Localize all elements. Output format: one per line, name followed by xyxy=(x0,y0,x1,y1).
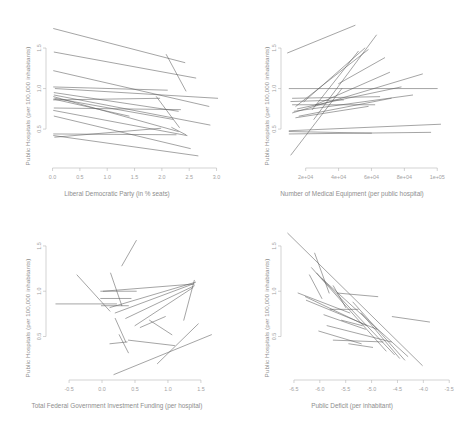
trend-line-segment xyxy=(156,97,179,128)
y-axis-title-bottom-right: Public Hospitals (per 100,000 inhabitant… xyxy=(263,243,270,393)
trend-line-segment xyxy=(110,342,127,344)
y-tick-label: 1.5 xyxy=(271,44,277,52)
x-tick-label: -3.5 xyxy=(445,386,454,392)
x-tick-label: -6.5 xyxy=(289,386,298,392)
trend-line-segment xyxy=(296,106,368,117)
trend-line-segment xyxy=(110,282,196,307)
x-tick-label: 1.5 xyxy=(197,386,205,392)
x-tick-label: 1e+05 xyxy=(430,174,445,180)
trend-line-segment xyxy=(166,55,186,91)
y-tick-label: 1.0 xyxy=(271,85,277,93)
plot-area-top-left: 0.00.51.01.52.02.53.00.51.01.5 xyxy=(0,0,234,211)
x-tick-label: -4.0 xyxy=(419,386,428,392)
trend-line-segment xyxy=(55,128,161,137)
trend-line-segment xyxy=(54,136,198,156)
y-tick-label: 0.5 xyxy=(36,333,42,341)
y-tick-label: 1.0 xyxy=(36,287,42,295)
panel-top-right: 2e+044e+046e+048e+041e+050.51.01.5 Publi… xyxy=(235,0,469,211)
trend-line-segment xyxy=(111,273,122,306)
x-tick-label: 0.0 xyxy=(49,174,57,180)
x-tick-label: 0.0 xyxy=(98,386,106,392)
trend-line-segment xyxy=(333,286,345,308)
trend-line-segment xyxy=(126,286,195,319)
x-axis-title-bottom-left: Total Federal Government Investment Fund… xyxy=(0,402,234,409)
x-tick-label: 4e+04 xyxy=(331,174,346,180)
x-tick-label: -5.5 xyxy=(341,386,350,392)
trend-line-segment xyxy=(298,293,350,313)
x-tick-label: 2e+04 xyxy=(298,174,313,180)
plot-area-bottom-left: -0.50.00.51.01.50.51.01.5 xyxy=(0,212,234,423)
panel-top-left: 0.00.51.01.52.02.53.00.51.01.5 Public Ho… xyxy=(0,0,234,211)
y-tick-label: 0.5 xyxy=(271,125,277,133)
panel-bottom-right: -6.5-6.0-5.5-5.0-4.5-4.0-3.50.51.01.5 Pu… xyxy=(235,212,469,423)
trend-line-segment xyxy=(114,335,212,375)
trend-line-segment xyxy=(349,344,373,348)
trend-line-segment xyxy=(288,233,423,365)
trend-line-segment xyxy=(337,293,377,297)
trend-line-segment xyxy=(304,48,365,102)
x-tick-label: 1.5 xyxy=(131,174,139,180)
trend-line-segment xyxy=(128,340,174,345)
plot-area-top-right: 2e+044e+046e+048e+041e+050.51.01.5 xyxy=(235,0,469,211)
trend-line-segment xyxy=(149,320,171,335)
trend-line-segment xyxy=(317,273,395,355)
plot-area-bottom-right: -6.5-6.0-5.5-5.0-4.5-4.0-3.50.51.01.5 xyxy=(235,212,469,423)
x-tick-label: 6e+04 xyxy=(364,174,379,180)
x-tick-label: 2.5 xyxy=(185,174,193,180)
y-tick-label: 1.0 xyxy=(271,287,277,295)
y-tick-label: 0.5 xyxy=(36,125,42,133)
trend-line-segment xyxy=(103,284,194,291)
trend-line-segment xyxy=(289,132,371,134)
trend-line-segment xyxy=(291,89,342,155)
x-tick-label: 8e+04 xyxy=(397,174,412,180)
x-tick-label: -6.0 xyxy=(315,386,324,392)
trend-line-segment xyxy=(339,58,385,84)
panel-bottom-left: -0.50.00.51.01.50.51.01.5 Public Hospita… xyxy=(0,212,234,423)
trend-line-segment xyxy=(135,288,193,326)
x-tick-label: -4.5 xyxy=(393,386,402,392)
trend-line-segment xyxy=(54,52,196,78)
y-tick-label: 1.5 xyxy=(36,242,42,250)
trend-line-segment xyxy=(115,318,126,342)
x-axis-title-top-left: Liberal Democratic Party (in % seats) xyxy=(0,190,234,197)
trend-line-segment xyxy=(54,29,185,63)
x-tick-label: -5.0 xyxy=(367,386,376,392)
y-axis-title-top-left: Public Hospitals (per 100,000 inhabitant… xyxy=(24,31,31,181)
x-axis-title-top-right: Number of Medical Equipment (per public … xyxy=(235,190,469,197)
y-tick-label: 1.0 xyxy=(36,85,42,93)
y-axis-title-bottom-left: Public Hospitals (per 100,000 inhabitant… xyxy=(24,243,31,393)
trend-line-segment xyxy=(306,300,376,329)
x-tick-label: 1.0 xyxy=(164,386,172,392)
trend-line-segment xyxy=(353,302,405,360)
trend-line-segment xyxy=(122,240,137,265)
trend-line-segment xyxy=(288,25,355,53)
x-tick-label: 2.0 xyxy=(158,174,166,180)
trend-line-segment xyxy=(293,97,380,99)
y-tick-label: 0.5 xyxy=(271,333,277,341)
trend-line-segment xyxy=(172,127,186,134)
y-tick-label: 1.5 xyxy=(271,242,277,250)
trend-line-segment xyxy=(54,134,176,135)
x-tick-label: 0.5 xyxy=(131,386,139,392)
trend-line-segment xyxy=(157,324,198,364)
trend-line-segment xyxy=(392,317,429,322)
trend-line-segment xyxy=(54,98,160,100)
trend-line-segment xyxy=(54,99,129,116)
y-axis-title-top-right: Public Hospitals (per 100,000 inhabitant… xyxy=(263,31,270,181)
x-tick-label: -0.5 xyxy=(64,386,73,392)
figure-panel-grid: 0.00.51.01.52.02.53.00.51.01.5 Public Ho… xyxy=(0,0,469,423)
x-tick-label: 3.0 xyxy=(213,174,221,180)
trend-line-segment xyxy=(309,275,321,299)
trend-line-segment xyxy=(333,340,383,342)
y-tick-label: 1.5 xyxy=(36,44,42,52)
x-tick-label: 1.0 xyxy=(103,174,111,180)
x-axis-title-bottom-right: Public Deficit (per inhabitant) xyxy=(235,402,469,409)
x-tick-label: 0.5 xyxy=(76,174,84,180)
